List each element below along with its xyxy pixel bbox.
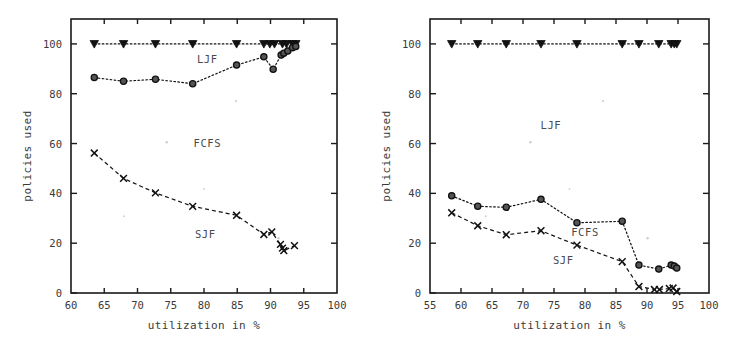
- y-tick-label: 40: [49, 187, 62, 199]
- x-tick-label: 90: [264, 299, 277, 311]
- data-point-fcfs: [538, 196, 544, 202]
- x-tick-label: 70: [131, 299, 144, 311]
- y-tick-label: 40: [408, 187, 421, 199]
- y-tick-label: 80: [408, 88, 421, 100]
- data-point-fcfs: [270, 66, 276, 72]
- y-tick-label: 20: [49, 237, 62, 249]
- chart-panel-right: 556065707580859095100020406080100utiliza…: [371, 0, 743, 354]
- x-tick-label: 65: [98, 299, 111, 311]
- y-tick-label: 0: [56, 287, 62, 299]
- data-point-sjf: [260, 231, 267, 238]
- x-tick-label: 95: [672, 299, 685, 311]
- plot-frame: [430, 19, 709, 293]
- y-tick-label: 100: [43, 38, 62, 50]
- y-tick-label: 60: [408, 138, 421, 150]
- data-point-fcfs: [120, 78, 126, 84]
- data-point-sjf: [474, 222, 481, 229]
- chart-panel-left: 6065707580859095100020406080100utilizati…: [0, 0, 372, 354]
- data-point-sjf: [152, 189, 159, 196]
- series-region-label-sjf: SJF: [553, 254, 574, 266]
- x-tick-label: 80: [579, 299, 592, 311]
- x-axis-title: utilization in %: [513, 319, 625, 332]
- x-tick-label: 85: [231, 299, 244, 311]
- series-region-label-sjf: SJF: [195, 228, 216, 240]
- x-tick-label: 65: [486, 299, 499, 311]
- data-point-fcfs: [656, 266, 662, 272]
- data-point-fcfs: [619, 218, 625, 224]
- series-region-label-ljf: LJF: [541, 119, 562, 131]
- x-tick-label: 75: [548, 299, 561, 311]
- data-point-sjf: [91, 150, 98, 157]
- data-point-sjf: [280, 247, 287, 254]
- series-line-sjf: [452, 213, 677, 292]
- y-tick-label: 100: [402, 38, 421, 50]
- data-point-fcfs: [475, 203, 481, 209]
- chart-svg-right: 556065707580859095100020406080100utiliza…: [371, 0, 743, 354]
- data-point-fcfs: [233, 62, 239, 68]
- data-point-fcfs: [91, 74, 97, 80]
- x-tick-label: 75: [164, 299, 177, 311]
- data-point-ljf: [90, 41, 98, 49]
- y-axis-title: policies used: [380, 110, 393, 201]
- chart-svg-left: 6065707580859095100020406080100utilizati…: [0, 0, 372, 354]
- series-region-label-ljf: LJF: [197, 53, 218, 65]
- x-axis-title: utilization in %: [148, 319, 260, 332]
- x-tick-label: 90: [641, 299, 654, 311]
- x-tick-label: 70: [517, 299, 530, 311]
- series-region-label-fcfs: FCFS: [193, 137, 221, 149]
- data-point-sjf: [673, 288, 680, 295]
- data-point-fcfs: [503, 204, 509, 210]
- y-tick-label: 60: [49, 138, 62, 150]
- y-tick-label: 0: [415, 287, 421, 299]
- data-point-fcfs: [293, 43, 299, 49]
- x-tick-label: 95: [297, 299, 310, 311]
- y-tick-label: 80: [49, 88, 62, 100]
- x-tick-label: 60: [65, 299, 78, 311]
- data-point-sjf: [268, 229, 275, 236]
- data-point-sjf: [619, 258, 626, 265]
- data-point-sjf: [448, 209, 455, 216]
- x-tick-label: 85: [610, 299, 623, 311]
- data-point-sjf: [503, 231, 510, 238]
- data-point-fcfs: [190, 81, 196, 87]
- data-point-sjf: [120, 175, 127, 182]
- x-tick-label: 55: [424, 299, 437, 311]
- x-tick-label: 80: [198, 299, 211, 311]
- data-point-sjf: [291, 242, 298, 249]
- x-tick-label: 100: [328, 299, 347, 311]
- series-region-label-fcfs: FCFS: [571, 226, 599, 238]
- data-point-fcfs: [449, 193, 455, 199]
- figure-two-panel-chart: 6065707580859095100020406080100utilizati…: [0, 0, 743, 354]
- x-tick-label: 100: [700, 299, 719, 311]
- y-tick-label: 20: [408, 237, 421, 249]
- y-axis-title: policies used: [21, 110, 34, 201]
- data-point-fcfs: [261, 54, 267, 60]
- data-point-sjf: [574, 242, 581, 249]
- data-point-fcfs: [636, 262, 642, 268]
- data-point-fcfs: [152, 76, 158, 82]
- data-point-fcfs: [674, 265, 680, 271]
- data-point-ljf: [448, 41, 456, 49]
- x-tick-label: 60: [455, 299, 468, 311]
